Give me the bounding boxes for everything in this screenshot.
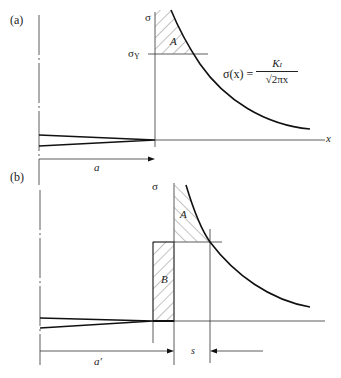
panel-a xyxy=(39,10,325,185)
area-b-label: B xyxy=(161,274,168,285)
crack-length-label-a: a xyxy=(94,162,100,173)
stress-curve-b xyxy=(186,185,310,307)
crack-a xyxy=(39,135,155,146)
panel-b-label: (b) xyxy=(10,171,24,183)
x-axis-label: x xyxy=(326,133,331,144)
area-a-label-b: A xyxy=(180,209,187,220)
sigma-axis-label-a: σ xyxy=(145,12,151,23)
panel-a-label: (a) xyxy=(10,14,23,26)
equation-denominator: √2πx xyxy=(256,72,298,85)
equation-lhs: σ(x) = xyxy=(223,68,253,80)
crack-length-label-b: a′ xyxy=(94,356,102,367)
area-a-label: A xyxy=(170,36,177,47)
crack-b xyxy=(40,318,153,328)
plastic-zone-label: s xyxy=(191,346,195,356)
sigma-axis-label-b: σ xyxy=(152,181,158,192)
equation-numerator: KI xyxy=(256,58,298,72)
fracture-diagram xyxy=(0,0,341,378)
equation-fraction: KI √2πx xyxy=(256,58,298,85)
yield-stress-label: σY xyxy=(128,48,140,61)
